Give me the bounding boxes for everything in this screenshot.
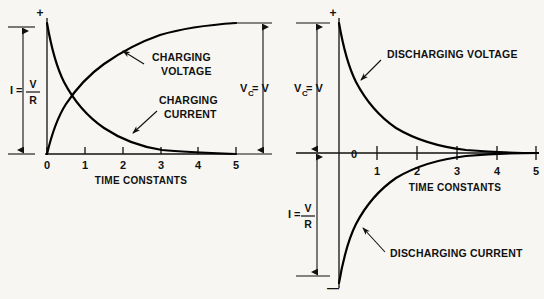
right-chart-discharging: + — 0 1 2 3 4 5 TIME CONSTANTS xyxy=(288,6,539,295)
right-dimension-Vc: V C = V xyxy=(294,23,330,153)
discharging-voltage-curve xyxy=(339,23,538,153)
charging-current-label-line2: CURRENT xyxy=(164,108,217,120)
right-zero-label: 0 xyxy=(351,148,357,160)
charging-current-leader xyxy=(133,111,157,133)
charging-voltage-curve xyxy=(47,23,236,154)
left-x-axis-title: TIME CONSTANTS xyxy=(95,175,187,186)
right-tick-label-3: 3 xyxy=(454,165,460,177)
left-tick-label-4: 4 xyxy=(195,159,202,171)
charging-voltage-label-line2: VOLTAGE xyxy=(161,65,212,77)
left-tick-label-5: 5 xyxy=(233,159,239,171)
right-x-axis-title: TIME CONSTANTS xyxy=(409,182,501,193)
right-dim-denominator: R xyxy=(304,218,312,230)
left-chart-vc-suffix: = V xyxy=(252,82,269,94)
discharging-current-curve xyxy=(339,153,538,283)
left-dim-denominator: R xyxy=(29,94,37,106)
discharging-current-label: DISCHARGING CURRENT xyxy=(390,247,523,259)
right-axis-minus-sign: — xyxy=(327,281,339,295)
left-dimension-I-over-R: I = V R xyxy=(8,27,40,154)
left-axis-plus-sign: + xyxy=(36,6,43,20)
discharging-voltage-leader xyxy=(361,60,381,80)
right-dim-numerator: V xyxy=(304,202,311,214)
left-tick-label-0: 0 xyxy=(44,159,50,171)
left-dim-prefix: I = xyxy=(10,84,23,96)
right-vc-prefix: V xyxy=(294,82,302,94)
discharging-voltage-label: DISCHARGING VOLTAGE xyxy=(387,48,518,60)
charging-voltage-leader xyxy=(123,51,144,64)
charging-voltage-label-line1: CHARGING xyxy=(152,51,211,63)
left-tick-label-1: 1 xyxy=(82,159,88,171)
right-axis-plus-sign: + xyxy=(329,6,336,20)
figure-canvas: + 0 1 2 3 4 5 TIME CONSTANTS xyxy=(0,0,544,299)
right-tick-label-5: 5 xyxy=(533,165,539,177)
rc-curves-figure: + 0 1 2 3 4 5 TIME CONSTANTS xyxy=(0,0,544,299)
right-tick-label-1: 1 xyxy=(374,165,380,177)
discharging-current-leader xyxy=(363,228,385,252)
left-tick-label-3: 3 xyxy=(158,159,164,171)
charging-current-label-line1: CHARGING xyxy=(159,94,218,106)
left-dim-numerator: V xyxy=(29,78,36,90)
left-chart-dimension-Vc: V C = V xyxy=(232,23,272,154)
left-chart-vc-prefix: V xyxy=(240,82,248,94)
left-tick-label-2: 2 xyxy=(120,159,126,171)
left-chart-charging: + 0 1 2 3 4 5 TIME CONSTANTS xyxy=(8,6,272,186)
right-dim-prefix: I = xyxy=(288,208,301,220)
right-vc-suffix: = V xyxy=(306,82,323,94)
right-tick-label-4: 4 xyxy=(494,165,501,177)
right-dimension-I-over-R: I = V R xyxy=(288,153,330,276)
